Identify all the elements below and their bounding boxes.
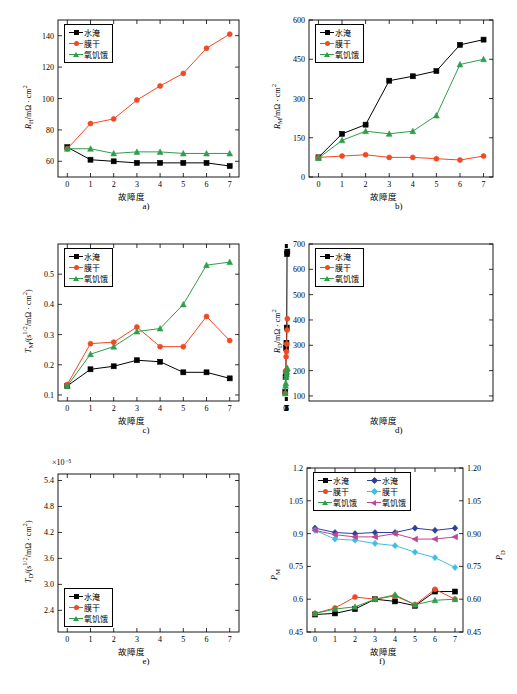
legend-label: 水淹 bbox=[381, 475, 398, 486]
svg-text:6: 6 bbox=[458, 180, 462, 189]
svg-text:2: 2 bbox=[112, 635, 116, 644]
legend-label: 膜干 bbox=[83, 262, 100, 273]
svg-text:200: 200 bbox=[293, 367, 305, 376]
svg-text:4: 4 bbox=[393, 635, 397, 644]
legend-label: 氧饥饿 bbox=[83, 613, 108, 624]
svg-text:700: 700 bbox=[293, 240, 305, 249]
legend-label: 水淹 bbox=[334, 27, 351, 38]
y-axis-title-d: RD/mΩ · cm2 bbox=[270, 309, 283, 353]
y-axis-title-c: TM/(s1/2/mΩ · cm2) bbox=[21, 289, 34, 353]
svg-text:5: 5 bbox=[181, 404, 185, 413]
svg-text:0.90: 0.90 bbox=[467, 530, 481, 539]
legend-symbol bbox=[320, 251, 334, 262]
svg-text:3: 3 bbox=[135, 635, 139, 644]
svg-text:7: 7 bbox=[453, 635, 457, 644]
legend-e: 水淹膜干氧饥饿 bbox=[64, 588, 113, 627]
legend-label: 氧饥饿 bbox=[334, 49, 359, 60]
svg-text:0: 0 bbox=[313, 635, 317, 644]
svg-text:0: 0 bbox=[65, 180, 69, 189]
legend-symbol bbox=[320, 27, 334, 38]
svg-text:4.2: 4.2 bbox=[44, 528, 54, 537]
legend-item: 膜干 bbox=[318, 262, 361, 273]
svg-text:60: 60 bbox=[46, 157, 54, 166]
legend-symbol bbox=[69, 49, 83, 60]
legend-item: 膜干 bbox=[67, 262, 110, 273]
legend-label: 膜干 bbox=[332, 486, 349, 497]
svg-text:1: 1 bbox=[88, 180, 92, 189]
legend-c: 水淹膜干氧饥饿 bbox=[64, 248, 113, 287]
svg-text:3: 3 bbox=[135, 404, 139, 413]
legend-symbol bbox=[320, 49, 334, 60]
y-axis-title-a: RH/mΩ · cm2 bbox=[21, 85, 34, 129]
svg-text:100: 100 bbox=[293, 392, 305, 401]
svg-text:140: 140 bbox=[42, 32, 54, 41]
legend-label: 水淹 bbox=[83, 591, 100, 602]
figure-page: 012345676080100120140故障度RH/mΩ · cm2水淹膜干氧… bbox=[0, 0, 517, 694]
svg-text:0.5: 0.5 bbox=[44, 270, 54, 279]
legend-symbol bbox=[367, 486, 381, 497]
svg-text:100: 100 bbox=[42, 95, 54, 104]
y-axis-title-right-f: PD bbox=[495, 550, 506, 560]
legend-item: 膜干 bbox=[67, 602, 110, 613]
legend-item: 氧饥饿 bbox=[365, 497, 408, 508]
y-axis-title-f: PM bbox=[270, 569, 281, 580]
legend-symbol bbox=[320, 38, 334, 49]
legend-label: 水淹 bbox=[83, 251, 100, 262]
svg-text:3.0: 3.0 bbox=[44, 580, 54, 589]
legend-symbol bbox=[367, 475, 381, 486]
svg-text:0: 0 bbox=[65, 635, 69, 644]
svg-text:5: 5 bbox=[434, 180, 438, 189]
chart-panel-d: 01234567100200300400500600700故障度RD/mΩ · … bbox=[263, 232, 503, 437]
svg-text:1: 1 bbox=[333, 635, 337, 644]
svg-text:400: 400 bbox=[293, 316, 305, 325]
legend-symbol bbox=[318, 475, 332, 486]
svg-text:4: 4 bbox=[411, 180, 415, 189]
legend-symbol bbox=[69, 27, 83, 38]
series-c-0 bbox=[65, 358, 232, 389]
svg-text:5: 5 bbox=[413, 635, 417, 644]
svg-text:1: 1 bbox=[340, 180, 344, 189]
svg-text:7: 7 bbox=[228, 635, 232, 644]
svg-text:1.20: 1.20 bbox=[467, 464, 481, 473]
svg-text:450: 450 bbox=[293, 55, 305, 64]
svg-text:5.4: 5.4 bbox=[44, 476, 54, 485]
svg-text:600: 600 bbox=[293, 16, 305, 25]
legend-a: 水淹膜干氧饥饿 bbox=[64, 24, 113, 63]
legend-symbol bbox=[318, 486, 332, 497]
panel-caption-f: f) bbox=[379, 656, 385, 666]
svg-text:0.9: 0.9 bbox=[293, 530, 303, 539]
svg-text:600: 600 bbox=[293, 265, 305, 274]
svg-text:1.05: 1.05 bbox=[289, 497, 303, 506]
svg-text:0.45: 0.45 bbox=[467, 628, 481, 637]
svg-text:3: 3 bbox=[387, 180, 391, 189]
x-axis-title-a: 故障度 bbox=[14, 190, 249, 202]
svg-text:0.6: 0.6 bbox=[293, 595, 303, 604]
legend-item: 水淹 bbox=[67, 27, 110, 38]
x-axis-title-c: 故障度 bbox=[14, 414, 249, 426]
legend-label: 水淹 bbox=[83, 27, 100, 38]
svg-text:5: 5 bbox=[181, 635, 185, 644]
svg-text:300: 300 bbox=[293, 341, 305, 350]
svg-text:4: 4 bbox=[158, 635, 162, 644]
svg-text:2: 2 bbox=[112, 404, 116, 413]
svg-text:0: 0 bbox=[316, 180, 320, 189]
legend-item: 水淹 bbox=[316, 475, 359, 486]
legend-symbol bbox=[69, 602, 83, 613]
svg-text:7: 7 bbox=[482, 180, 486, 189]
legend-item: 膜干 bbox=[318, 38, 361, 49]
svg-text:0.75: 0.75 bbox=[289, 562, 303, 571]
legend-d: 水淹膜干氧饥饿 bbox=[315, 248, 364, 287]
legend-item: 氧饥饿 bbox=[318, 49, 361, 60]
y-axis-title-b: RM/mΩ · cm2 bbox=[270, 84, 283, 129]
svg-text:6: 6 bbox=[205, 635, 209, 644]
svg-text:7: 7 bbox=[228, 404, 232, 413]
legend-symbol bbox=[320, 262, 334, 273]
legend-f: 水淹膜干氧饥饿水淹膜干氧饥饿 bbox=[313, 472, 411, 511]
svg-text:150: 150 bbox=[293, 134, 305, 143]
svg-text:6: 6 bbox=[433, 635, 437, 644]
svg-text:0.2: 0.2 bbox=[44, 361, 54, 370]
svg-text:2: 2 bbox=[364, 180, 368, 189]
series-a-2 bbox=[64, 146, 232, 156]
legend-label: 氧饥饿 bbox=[334, 273, 359, 284]
svg-text:0.4: 0.4 bbox=[44, 300, 54, 309]
